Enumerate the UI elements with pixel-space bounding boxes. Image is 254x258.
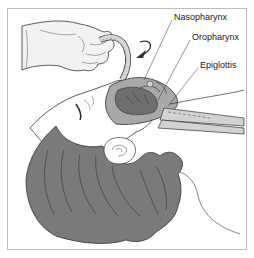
rotation-arrow-icon	[136, 41, 150, 58]
ear	[104, 138, 136, 165]
label-oropharynx: Oropharynx	[192, 32, 239, 42]
gloved-hand	[22, 21, 114, 71]
label-nasopharynx: Nasopharynx	[174, 12, 227, 22]
label-epiglottis: Epiglottis	[200, 60, 237, 70]
neck-outline	[180, 172, 240, 234]
